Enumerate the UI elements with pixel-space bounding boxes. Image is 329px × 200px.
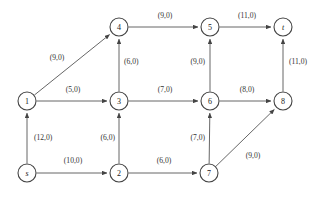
edge-label-4-to-5: (9,0) — [158, 11, 173, 20]
node-2[interactable]: 2 — [110, 164, 128, 182]
node-label-5: 5 — [208, 23, 212, 32]
node-6[interactable]: 6 — [201, 92, 219, 110]
node-1[interactable]: 1 — [18, 92, 36, 110]
edge-label-3-to-4: (6,0) — [124, 57, 139, 66]
node-label-4: 4 — [117, 23, 121, 32]
edge-label-3-to-6: (7,0) — [158, 85, 173, 94]
node-label-2: 2 — [117, 169, 121, 178]
node-t[interactable]: t — [274, 18, 292, 36]
edges-layer — [27, 27, 283, 173]
edge-label-s-to-1: (12,0) — [34, 133, 53, 142]
node-label-s: s — [25, 169, 28, 178]
edge-7-to-6 — [209, 113, 210, 163]
edge-labels-layer: (12,0)(10,0)(9,0)(5,0)(6,0)(6,0)(6,0)(7,… — [34, 11, 308, 165]
edge-label-8-to-t: (11,0) — [289, 57, 308, 66]
node-label-7: 7 — [207, 169, 211, 178]
network-flow-diagram: (12,0)(10,0)(9,0)(5,0)(6,0)(6,0)(6,0)(7,… — [0, 0, 329, 200]
node-s[interactable]: s — [18, 164, 36, 182]
node-4[interactable]: 4 — [110, 18, 128, 36]
edge-label-6-to-8: (8,0) — [240, 85, 255, 94]
node-7[interactable]: 7 — [200, 164, 218, 182]
node-label-6: 6 — [208, 97, 212, 106]
node-3[interactable]: 3 — [110, 92, 128, 110]
edge-label-2-to-3: (6,0) — [100, 133, 115, 142]
node-label-8: 8 — [281, 97, 285, 106]
edge-label-7-to-6: (7,0) — [190, 133, 205, 142]
edge-label-7-to-8: (9,0) — [246, 151, 261, 160]
edge-label-1-to-4: (9,0) — [50, 53, 65, 62]
edge-label-s-to-2: (10,0) — [64, 156, 83, 165]
edge-label-2-to-7: (6,0) — [157, 156, 172, 165]
edge-label-6-to-5: (9,0) — [190, 57, 205, 66]
node-label-3: 3 — [117, 97, 121, 106]
node-label-1: 1 — [25, 97, 29, 106]
node-5[interactable]: 5 — [201, 18, 219, 36]
edge-label-1-to-3: (5,0) — [66, 85, 81, 94]
node-8[interactable]: 8 — [274, 92, 292, 110]
edge-label-5-to-t: (11,0) — [238, 11, 257, 20]
flow-network-svg: (12,0)(10,0)(9,0)(5,0)(6,0)(6,0)(6,0)(7,… — [0, 0, 329, 200]
